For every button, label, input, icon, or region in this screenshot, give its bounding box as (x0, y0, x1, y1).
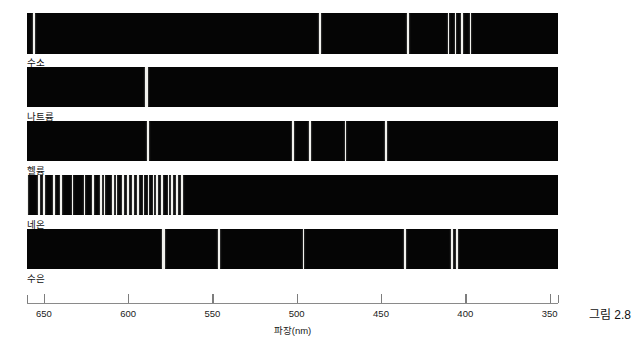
axis-tick (297, 294, 298, 303)
axis-title: 파장(nm) (274, 323, 312, 337)
axis-tick (381, 294, 382, 303)
axis-tick-label: 450 (373, 308, 389, 319)
spectra-figure: 수소나트륨헬륨네온수은 650600550500450400350파장(nm) … (0, 0, 637, 340)
axis-tick (128, 294, 129, 303)
axis-tick-label: 350 (542, 308, 558, 319)
axis-tick-label: 550 (204, 308, 220, 319)
wavelength-axis: 650600550500450400350파장(nm) (0, 0, 637, 340)
axis-tick-label: 400 (457, 308, 473, 319)
axis-tick (212, 294, 213, 303)
axis-line (27, 303, 558, 304)
axis-tick (550, 294, 551, 303)
figure-caption: 그림 2.8 (589, 305, 631, 322)
axis-endcap (27, 295, 28, 303)
axis-tick (465, 294, 466, 303)
axis-tick-label: 650 (36, 308, 52, 319)
axis-tick (44, 294, 45, 303)
axis-tick-label: 600 (120, 308, 136, 319)
axis-tick-label: 500 (289, 308, 305, 319)
axis-endcap (558, 295, 559, 303)
